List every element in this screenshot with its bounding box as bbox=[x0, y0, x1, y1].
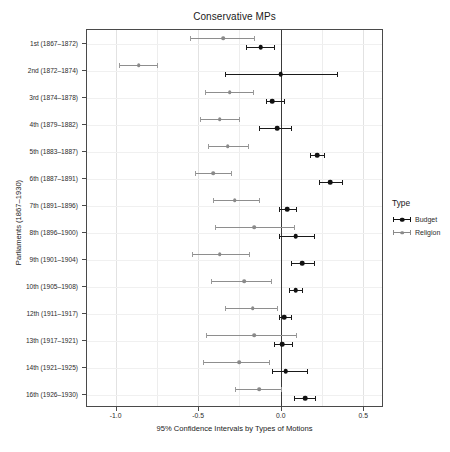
y-axis-tick-label: 1st (1867–1872) bbox=[30, 39, 78, 46]
y-axis-tick-label: 13th (1917–1921) bbox=[26, 336, 78, 343]
grid-line-horizontal bbox=[87, 98, 382, 99]
confidence-interval-bar bbox=[272, 371, 307, 372]
y-axis-tick bbox=[82, 178, 86, 179]
grid-line-vertical bbox=[363, 30, 364, 406]
y-axis-tick-label: 8th (1896–1900) bbox=[30, 228, 78, 235]
confidence-interval-cap bbox=[246, 45, 247, 50]
chart-figure: Conservative MPs 1st (1867–1872)2nd (187… bbox=[0, 0, 450, 452]
confidence-interval-cap bbox=[253, 90, 254, 95]
legend-item-label: Budget bbox=[415, 216, 437, 223]
confidence-interval-cap bbox=[279, 315, 280, 320]
confidence-interval-cap bbox=[324, 153, 325, 158]
grid-line-horizontal bbox=[87, 314, 382, 315]
confidence-interval-cap bbox=[205, 90, 206, 95]
x-axis-tick-label: 0.5 bbox=[358, 412, 367, 419]
y-axis-tick bbox=[82, 205, 86, 206]
confidence-interval-cap bbox=[254, 36, 255, 41]
confidence-interval-cap bbox=[213, 198, 214, 203]
confidence-interval-cap bbox=[289, 288, 290, 293]
y-axis-tick-label: 10th (1905–1908) bbox=[26, 282, 78, 289]
confidence-interval-bar bbox=[206, 335, 295, 336]
confidence-interval-cap bbox=[190, 36, 191, 41]
confidence-interval-cap bbox=[291, 261, 292, 266]
confidence-interval-cap bbox=[310, 153, 311, 158]
confidence-interval-cap bbox=[294, 396, 295, 401]
y-axis-tick bbox=[82, 367, 86, 368]
data-point-religion bbox=[238, 360, 242, 364]
grid-line-horizontal bbox=[87, 125, 382, 126]
confidence-interval-cap bbox=[200, 117, 201, 122]
legend-key-icon bbox=[392, 215, 412, 225]
plot-panel bbox=[86, 29, 383, 407]
grid-line-horizontal bbox=[87, 179, 382, 180]
confidence-interval-cap bbox=[319, 180, 320, 185]
legend-item-budget[interactable]: Budget bbox=[392, 213, 450, 226]
confidence-interval-cap bbox=[259, 126, 260, 131]
confidence-interval-cap bbox=[342, 180, 343, 185]
grid-line-horizontal bbox=[87, 233, 382, 234]
grid-line-horizontal bbox=[87, 152, 382, 153]
data-point-religion bbox=[257, 387, 261, 391]
confidence-interval-cap bbox=[296, 333, 297, 338]
y-axis-tick-label: 3rd (1874–1878) bbox=[29, 93, 78, 100]
confidence-interval-cap bbox=[307, 369, 308, 374]
y-axis-tick bbox=[82, 151, 86, 152]
data-point-religion bbox=[226, 144, 230, 148]
confidence-interval-cap bbox=[314, 234, 315, 239]
confidence-interval-cap bbox=[269, 360, 270, 365]
data-point-budget bbox=[293, 234, 298, 239]
confidence-interval-cap bbox=[281, 387, 282, 392]
grid-line-horizontal bbox=[87, 206, 382, 207]
y-axis-tick bbox=[82, 43, 86, 44]
data-point-budget bbox=[275, 126, 280, 131]
legend-item-label: Religion bbox=[415, 229, 440, 236]
x-axis-tick bbox=[363, 407, 364, 411]
confidence-interval-cap bbox=[302, 288, 303, 293]
grid-line-vertical bbox=[116, 30, 117, 406]
legend-item-religion[interactable]: Religion bbox=[392, 226, 450, 239]
grid-line-horizontal bbox=[87, 341, 382, 342]
confidence-interval-cap bbox=[235, 387, 236, 392]
grid-line-horizontal bbox=[87, 395, 382, 396]
confidence-interval-cap bbox=[206, 333, 207, 338]
x-axis-tick-label: 0.0 bbox=[276, 412, 285, 419]
data-point-religion bbox=[253, 225, 257, 229]
data-point-budget bbox=[293, 288, 298, 293]
data-point-religion bbox=[253, 333, 257, 337]
confidence-interval-cap bbox=[248, 144, 249, 149]
y-axis-tick-label: 9th (1901–1904) bbox=[30, 255, 78, 262]
data-point-religion bbox=[137, 63, 141, 67]
confidence-interval-cap bbox=[292, 342, 293, 347]
y-axis-tick-label: 14th (1921–1925) bbox=[26, 363, 78, 370]
confidence-interval-cap bbox=[279, 207, 280, 212]
y-axis-tick-label: 2nd (1872–1874) bbox=[28, 66, 78, 73]
confidence-interval-cap bbox=[296, 207, 297, 212]
confidence-interval-cap bbox=[274, 45, 275, 50]
chart-title: Conservative MPs bbox=[86, 11, 383, 22]
data-point-budget bbox=[328, 180, 333, 185]
data-point-budget bbox=[259, 45, 264, 50]
x-axis-title: 95% Confidence Intervals by Types of Mot… bbox=[86, 424, 383, 433]
y-axis-tick bbox=[82, 70, 86, 71]
y-axis-title: Parliaments (1867–1930) bbox=[14, 143, 23, 303]
legend-items: BudgetReligion bbox=[392, 213, 450, 239]
data-point-religion bbox=[218, 117, 222, 121]
grid-line-vertical bbox=[322, 30, 323, 406]
y-axis-tick bbox=[82, 124, 86, 125]
confidence-interval-cap bbox=[279, 234, 280, 239]
confidence-interval-cap bbox=[203, 360, 204, 365]
data-point-religion bbox=[251, 306, 255, 310]
y-axis-tick-label: 16th (1926–1930) bbox=[26, 390, 78, 397]
data-point-budget bbox=[280, 342, 285, 347]
grid-line-vertical bbox=[239, 30, 240, 406]
confidence-interval-cap bbox=[315, 396, 316, 401]
confidence-interval-cap bbox=[249, 252, 250, 257]
x-axis-tick-label: -1.0 bbox=[110, 412, 122, 419]
data-point-budget bbox=[285, 207, 290, 212]
confidence-interval-cap bbox=[274, 342, 275, 347]
confidence-interval-cap bbox=[208, 144, 209, 149]
confidence-interval-cap bbox=[215, 225, 216, 230]
confidence-interval-bar bbox=[266, 101, 284, 102]
y-axis-tick-label: 4th (1879–1882) bbox=[30, 120, 78, 127]
grid-line-horizontal bbox=[87, 260, 382, 261]
